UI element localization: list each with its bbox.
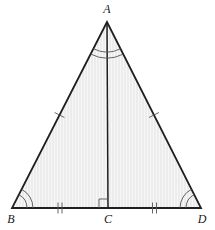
vertex-label-b: B [7, 212, 15, 226]
geometry-figure: A B C D [0, 0, 215, 230]
vertex-label-a: A [102, 2, 111, 16]
figure-canvas: A B C D [0, 0, 215, 230]
vertex-label-d: D [197, 212, 207, 226]
vertex-label-c: C [104, 212, 113, 226]
altitude-segment-ac [107, 22, 108, 208]
